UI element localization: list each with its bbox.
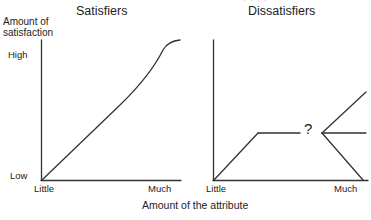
branch-up: [322, 92, 366, 133]
figure-container: · · · · Satisfiers Dissatisfiers Amount …: [0, 0, 371, 220]
y-tick-high: High: [8, 50, 28, 61]
panel2-x-tick-left: Little: [206, 184, 226, 195]
dissatisfier-rise: [214, 133, 258, 180]
figure-linework: [0, 0, 371, 220]
panel1-x-tick-right: Much: [148, 184, 171, 195]
branch-down: [322, 133, 363, 180]
y-axis-title-line1: Amount of: [3, 16, 49, 27]
uncertainty-question-mark: ?: [304, 121, 312, 138]
panel2-title: Dissatisfiers: [248, 4, 315, 18]
panel2-x-tick-right: Much: [334, 184, 357, 195]
y-tick-low: Low: [10, 171, 27, 182]
panel1-title: Satisfiers: [76, 4, 127, 18]
panel1-x-tick-left: Little: [34, 184, 54, 195]
satisfier-curve: [42, 40, 180, 180]
x-axis-caption: Amount of the attribute: [142, 200, 248, 212]
y-axis-title-line2: satisfaction: [3, 27, 53, 38]
